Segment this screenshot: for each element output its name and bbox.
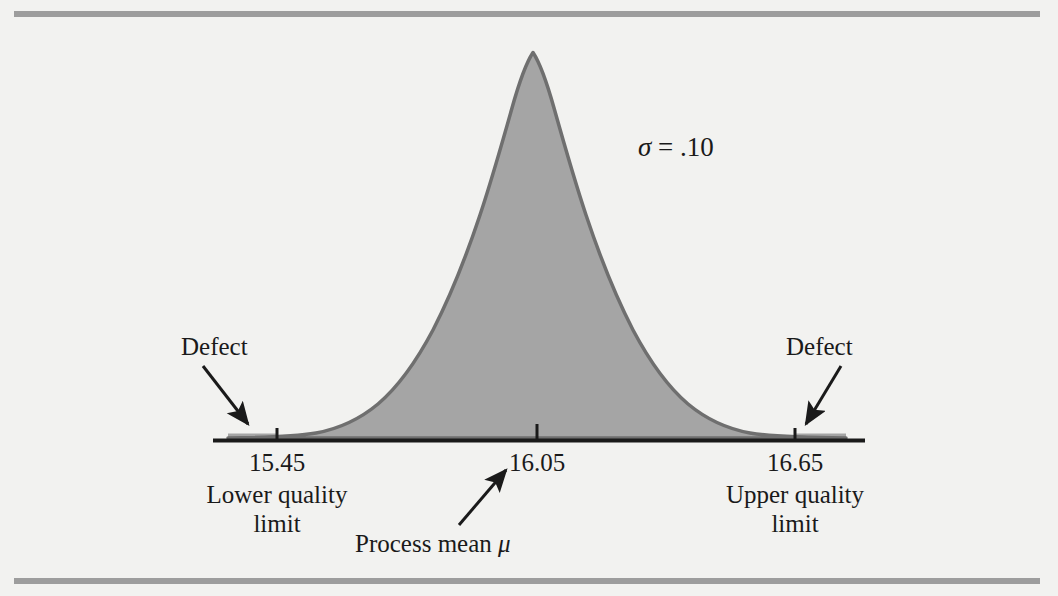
lower-quality-limit-line1: Lower quality [162,481,392,510]
sigma-symbol: σ [638,132,651,162]
sigma-equals-sign: = [651,132,680,162]
defect-left-arrow [203,366,248,424]
upper-quality-limit-caption: Upper quality limit [680,481,910,538]
tick-label-process-mean: 16.05 [437,449,637,478]
defect-right-arrow [806,366,841,424]
mu-symbol: μ [498,530,511,557]
process-mean-arrow [459,470,506,525]
defect-label-left: Defect [181,333,248,362]
sigma-annotation: σ = .10 [638,132,714,163]
quality-control-normal-curve-figure: σ = .10 Defect Defect 15.45 16.05 16.65 … [0,0,1058,596]
process-mean-caption: Process mean μ [355,530,511,559]
tick-label-upper-limit: 16.65 [695,449,895,478]
defect-label-right: Defect [786,333,853,362]
sigma-value: .10 [680,132,714,162]
upper-quality-limit-line2: limit [680,510,910,539]
process-mean-text: Process mean [355,530,498,557]
tick-label-lower-limit: 15.45 [177,449,377,478]
normal-curve-area [228,53,846,439]
upper-quality-limit-line1: Upper quality [680,481,910,510]
